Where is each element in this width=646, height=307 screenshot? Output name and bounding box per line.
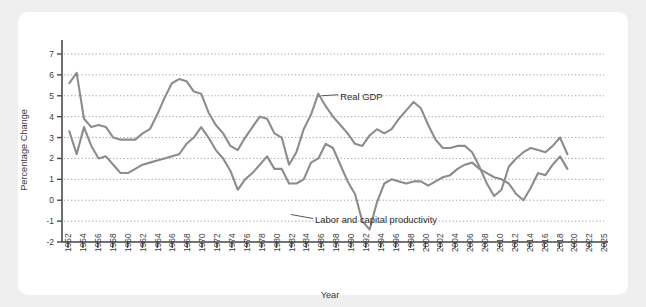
y-tick-label: 1 [49, 174, 54, 184]
x-tick-label: 1952 [63, 233, 73, 252]
line-chart: -2-101234567 195219541956195819601962196… [0, 0, 646, 307]
x-tick-label: 1954 [78, 233, 88, 252]
x-tick-label: 1970 [197, 233, 207, 252]
y-tick-label: 4 [49, 112, 54, 122]
y-tick-label: 2 [49, 153, 54, 163]
annotation-productivity: Labor and capital productivity [315, 214, 437, 225]
x-tick-label: 1958 [108, 233, 118, 252]
x-tick-label: 2004 [450, 233, 460, 252]
x-tick-label: 2006 [465, 233, 475, 252]
y-tick-label: 7 [49, 49, 54, 59]
x-tick-label: 1966 [167, 233, 177, 252]
x-tick-label: 1986 [316, 233, 326, 252]
y-axis-title: Percentage Change [19, 109, 29, 191]
x-tick-label: 2010 [495, 233, 505, 252]
y-tick-label: 6 [49, 70, 54, 80]
x-tick-label: 1960 [123, 233, 133, 252]
x-tick-label: 1996 [391, 233, 401, 252]
y-axis-ticks: -2-101234567 [47, 49, 62, 247]
x-tick-label: 1964 [153, 233, 163, 252]
x-axis-title: Year [321, 290, 340, 300]
x-tick-label: 2002 [435, 233, 445, 252]
x-tick-label: 1994 [376, 233, 386, 252]
y-tick-label: -2 [47, 237, 55, 247]
x-tick-label: 1972 [212, 233, 222, 252]
series-lines [69, 73, 567, 230]
x-tick-label: 2008 [480, 233, 490, 252]
x-tick-label: 1998 [406, 233, 416, 252]
x-tick-label: 1984 [301, 233, 311, 252]
x-tick-label: 2018 [555, 233, 565, 252]
x-tick-label: 2025 [599, 233, 609, 252]
leader-line-real-gdp [321, 95, 338, 96]
x-tick-label: 1990 [346, 233, 356, 252]
y-tick-label: 0 [49, 195, 54, 205]
x-tick-label: 1978 [257, 233, 267, 252]
x-tick-label: 1988 [331, 233, 341, 252]
x-tick-label: 1956 [93, 233, 103, 252]
x-tick-label: 1982 [287, 233, 297, 252]
x-tick-label: 1980 [272, 233, 282, 252]
x-tick-label: 1976 [242, 233, 252, 252]
y-tick-label: -1 [47, 216, 55, 226]
x-tick-label: 2020 [569, 233, 579, 252]
x-tick-label: 2022 [584, 233, 594, 252]
x-tick-label: 1962 [138, 233, 148, 252]
x-tick-label: 1992 [361, 233, 371, 252]
chart-container: -2-101234567 195219541956195819601962196… [0, 0, 646, 307]
y-tick-label: 3 [49, 133, 54, 143]
y-tick-label: 5 [49, 91, 54, 101]
x-tick-label: 2000 [421, 233, 431, 252]
leader-line-productivity [291, 215, 313, 219]
x-tick-label: 2012 [510, 233, 520, 252]
x-tick-label: 1974 [227, 233, 237, 252]
x-tick-label: 1968 [182, 233, 192, 252]
x-axis-ticks: 1952195419561958196019621964196619681970… [63, 233, 609, 252]
x-tick-label: 2016 [540, 233, 550, 252]
x-tick-label: 2014 [525, 233, 535, 252]
axes [62, 40, 608, 242]
annotation-real-gdp: Real GDP [340, 91, 382, 102]
